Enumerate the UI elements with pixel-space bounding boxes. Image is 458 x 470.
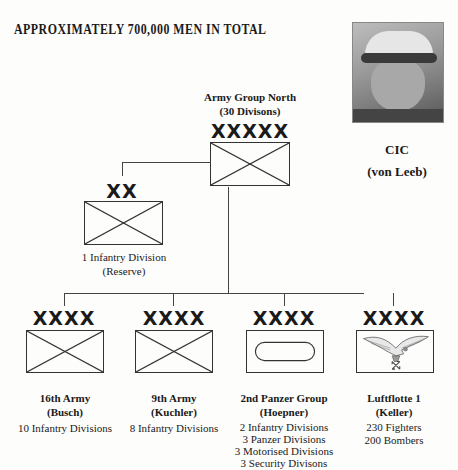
army-1-commander: (Busch) xyxy=(5,405,125,419)
hq-unit-symbol xyxy=(210,142,290,186)
army-3-name: 2nd Panzer Group xyxy=(224,391,344,405)
army-2-name: 9th Army xyxy=(114,391,234,405)
connector-drop-1 xyxy=(64,293,65,306)
connector-drop-2 xyxy=(173,293,174,306)
commander-title: CIC xyxy=(352,142,442,158)
connector-hq-trunk xyxy=(228,187,229,293)
infantry-cross-icon xyxy=(85,202,162,244)
reserve-echelon: XX xyxy=(82,182,162,200)
army-1-unit-symbol xyxy=(26,330,104,373)
connector-armies-bus xyxy=(64,293,364,294)
armor-oval-icon xyxy=(247,331,323,372)
connector-reserve-drop xyxy=(122,162,123,176)
hq-detail: (30 Divisons) xyxy=(190,104,310,118)
hq-echelon: XXXXX xyxy=(190,122,310,140)
infantry-cross-icon xyxy=(27,331,103,372)
hq-name: Army Group North xyxy=(190,90,310,104)
commander-portrait xyxy=(352,22,444,123)
army-2-commander: (Kuchler) xyxy=(114,405,234,419)
army-4-commander: (Keller) xyxy=(334,405,454,419)
luftwaffe-eagle-icon xyxy=(357,331,433,372)
connector-drop-4 xyxy=(393,293,394,306)
army-4-name: Luftflotte 1 xyxy=(334,391,454,405)
army-2-unit-1: 8 Infantry Divisions xyxy=(114,421,234,435)
army-1-name: 16th Army xyxy=(5,391,125,405)
headline: APPROXIMATELY 700,000 MEN IN TOTAL xyxy=(14,21,266,38)
reserve-unit-symbol xyxy=(84,201,163,245)
reserve-line-1: 1 Infantry Division xyxy=(64,250,184,264)
commander-name: (von Leeb) xyxy=(352,164,442,180)
infantry-cross-icon xyxy=(136,331,212,372)
army-3-unit-4: 3 Security Divisons xyxy=(224,456,344,470)
army-4-echelon: XXXX xyxy=(354,309,434,327)
army-1-echelon: XXXX xyxy=(24,309,104,327)
army-3-echelon: XXXX xyxy=(244,309,324,327)
army-3-commander: (Hoepner) xyxy=(224,405,344,419)
army-2-echelon: XXXX xyxy=(134,309,214,327)
reserve-line-2: (Reserve) xyxy=(64,264,184,278)
connector-drop-3 xyxy=(284,293,285,306)
army-4-unit-2: 200 Bombers xyxy=(334,433,454,447)
army-4-unit-1: 230 Fighters xyxy=(334,420,454,434)
army-4-unit-symbol xyxy=(356,330,434,373)
army-3-unit-symbol xyxy=(246,330,324,373)
army-2-unit-symbol xyxy=(135,330,213,373)
connector-hq-reserve xyxy=(122,162,211,163)
infantry-cross-icon xyxy=(211,143,289,185)
army-1-unit-1: 10 Infantry Divisions xyxy=(5,421,125,435)
